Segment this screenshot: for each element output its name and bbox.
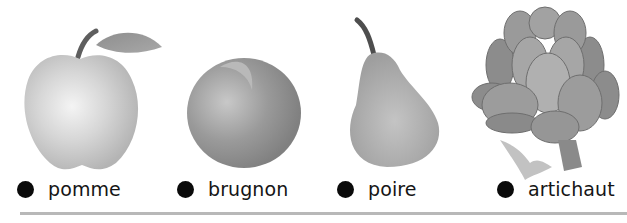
label-row: brugnon (177, 178, 288, 200)
word-label: pomme (48, 178, 121, 200)
vocab-item-poire: poire (330, 0, 470, 223)
label-row: artichaut (497, 178, 615, 200)
vocab-item-brugnon: brugnon (170, 0, 330, 223)
label-row: pomme (17, 178, 121, 200)
word-label: brugnon (208, 178, 288, 200)
divider (20, 212, 627, 215)
bullet-icon (177, 181, 194, 198)
vocab-item-artichaut: artichaut (470, 0, 627, 223)
bullet-icon (497, 181, 514, 198)
bullet-icon (17, 181, 34, 198)
pear-icon (342, 15, 452, 175)
word-label: poire (368, 178, 417, 200)
apple-icon (20, 25, 170, 175)
bullet-icon (337, 181, 354, 198)
artichoke-icon (470, 5, 620, 185)
nectarine-icon (180, 45, 305, 170)
word-label: artichaut (528, 178, 615, 200)
label-row: poire (337, 178, 417, 200)
vocab-item-pomme: pomme (0, 0, 170, 223)
